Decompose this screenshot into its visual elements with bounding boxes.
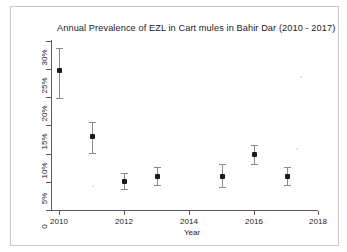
x-axis-label-2016: 2016	[237, 217, 271, 226]
errorbar-cap-lower	[251, 164, 258, 165]
scan-speckle	[92, 185, 94, 187]
x-axis-tick-2012	[124, 211, 125, 215]
scan-speckle	[300, 76, 302, 78]
errorbar-cap-upper	[251, 145, 258, 146]
errorbar-cap-upper	[89, 122, 96, 123]
x-axis-title: Year	[172, 228, 212, 237]
y-axis-label-20: 20%	[40, 99, 49, 129]
x-axis-tick-2016	[254, 211, 255, 215]
errorbar-cap-upper	[56, 48, 63, 49]
data-point-marker	[90, 134, 95, 139]
errorbar-cap-upper	[219, 164, 226, 165]
data-point-marker	[285, 174, 290, 179]
y-axis-label-0: 0	[40, 212, 49, 242]
errorbar-cap-upper	[154, 167, 161, 168]
errorbar-cap-upper	[284, 167, 291, 168]
scan-speckle	[296, 148, 298, 150]
errorbar-cap-lower	[121, 189, 128, 190]
chart-title: Annual Prevalence of EZL in Cart mules i…	[57, 23, 337, 33]
data-point-marker	[220, 174, 225, 179]
x-axis-tick-2018	[318, 211, 319, 215]
errorbar-cap-lower	[56, 98, 63, 99]
y-axis-label-30: 30%	[40, 43, 49, 73]
errorbar-cap-lower	[154, 185, 161, 186]
x-axis-tick-2014	[189, 211, 190, 215]
data-point-marker	[252, 152, 257, 157]
x-axis-label-2014: 2014	[172, 217, 206, 226]
x-axis-label-2018: 2018	[301, 217, 335, 226]
data-point-marker	[122, 179, 127, 184]
data-point-marker	[57, 68, 62, 73]
chart-figure: Annual Prevalence of EZL in Cart mules i…	[0, 0, 347, 252]
y-axis-label-15: 15%	[40, 127, 49, 157]
x-axis-label-2010: 2010	[42, 217, 76, 226]
errorbar-cap-upper	[121, 173, 128, 174]
y-axis-label-5: 5%	[40, 184, 49, 214]
x-axis-tick-2010	[59, 211, 60, 215]
x-axis-label-2012: 2012	[107, 217, 141, 226]
errorbar-cap-lower	[219, 187, 226, 188]
y-axis-line	[51, 40, 52, 211]
errorbar-cap-lower	[284, 185, 291, 186]
y-axis-label-10: 10%	[40, 156, 49, 186]
x-axis-line	[51, 210, 318, 211]
y-axis-label-25: 25%	[40, 71, 49, 101]
errorbar-cap-lower	[89, 153, 96, 154]
data-point-marker	[155, 174, 160, 179]
